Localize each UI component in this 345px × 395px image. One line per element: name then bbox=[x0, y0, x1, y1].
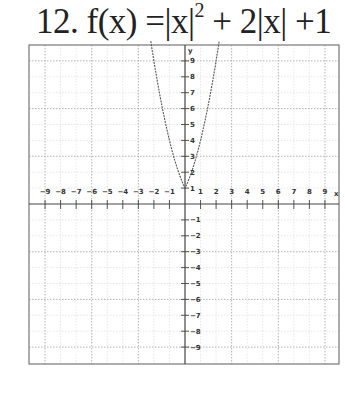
x-tick-label: −3 bbox=[133, 188, 144, 196]
x-tick-label: 5 bbox=[260, 188, 265, 196]
y-tick-label: 4 bbox=[190, 137, 195, 145]
x-tick-label: −6 bbox=[86, 188, 97, 196]
x-tick-label: 8 bbox=[307, 188, 312, 196]
y-tick-label: 8 bbox=[190, 73, 195, 81]
y-tick-label: −5 bbox=[190, 280, 201, 288]
x-tick-label: −1 bbox=[164, 188, 175, 196]
y-tick-label: 3 bbox=[190, 153, 195, 161]
y-tick-label: −6 bbox=[190, 296, 201, 304]
x-axis-label: x bbox=[334, 190, 339, 198]
x-tick-label: 1 bbox=[198, 188, 203, 196]
x-tick-label: −9 bbox=[40, 188, 51, 196]
y-tick-label: −4 bbox=[190, 264, 201, 272]
y-tick-label: −7 bbox=[190, 312, 201, 320]
x-tick-label: −2 bbox=[149, 188, 160, 196]
coordinate-plane: −9−8−7−6−5−4−3−2−1123456789−9−8−7−6−5−4−… bbox=[0, 0, 345, 395]
x-tick-label: 2 bbox=[214, 188, 219, 196]
x-tick-label: 6 bbox=[276, 188, 281, 196]
x-tick-label: 4 bbox=[245, 188, 250, 196]
y-tick-label: 1 bbox=[190, 185, 195, 193]
y-tick-label: 6 bbox=[190, 105, 195, 113]
y-tick-label: −1 bbox=[190, 216, 201, 224]
x-tick-label: −5 bbox=[102, 188, 113, 196]
x-tick-label: 3 bbox=[229, 188, 234, 196]
y-axis-label: y bbox=[188, 47, 193, 55]
x-tick-label: 7 bbox=[291, 188, 296, 196]
y-tick-label: −9 bbox=[190, 344, 201, 352]
y-tick-label: 7 bbox=[190, 89, 195, 97]
x-tick-label: −7 bbox=[71, 188, 82, 196]
y-tick-label: −2 bbox=[190, 232, 201, 240]
y-tick-label: 5 bbox=[190, 121, 195, 129]
y-tick-label: −8 bbox=[190, 328, 201, 336]
x-tick-label: 9 bbox=[323, 188, 328, 196]
x-tick-label: −8 bbox=[55, 188, 66, 196]
y-tick-label: −3 bbox=[190, 248, 201, 256]
y-tick-label: 9 bbox=[190, 57, 195, 65]
x-tick-label: −4 bbox=[117, 188, 128, 196]
